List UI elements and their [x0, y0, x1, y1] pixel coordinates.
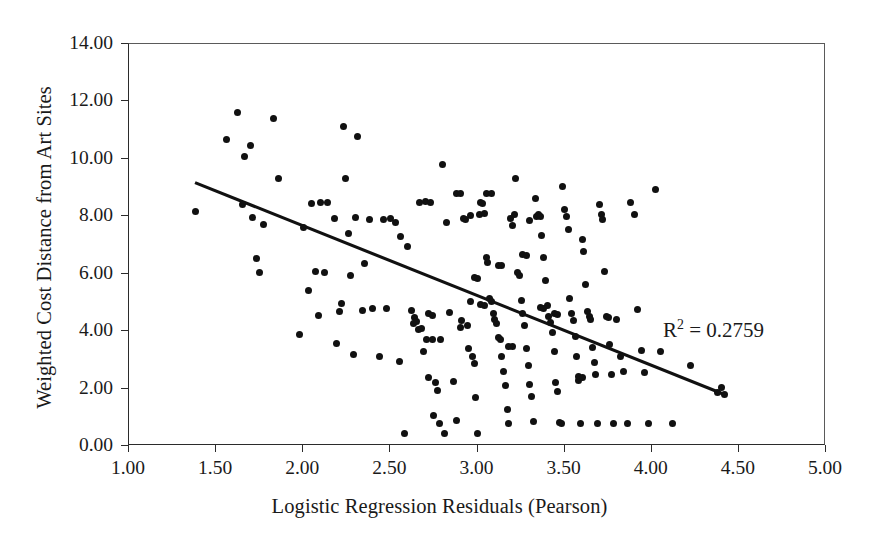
- data-point: [270, 115, 277, 122]
- data-point: [275, 175, 282, 182]
- data-point: [336, 308, 343, 315]
- data-point: [425, 374, 432, 381]
- data-point: [634, 306, 641, 313]
- data-point: [582, 281, 589, 288]
- data-point: [579, 236, 586, 243]
- data-point: [484, 259, 491, 266]
- data-point: [657, 348, 664, 355]
- x-axis-tick-label: 4.00: [606, 458, 696, 478]
- data-point: [523, 252, 530, 259]
- data-point: [464, 322, 471, 329]
- data-point: [554, 311, 561, 318]
- data-point: [472, 394, 479, 401]
- data-point: [608, 371, 615, 378]
- data-point: [392, 219, 399, 226]
- data-point: [559, 183, 566, 190]
- x-axis-tick: [477, 445, 478, 452]
- data-point: [721, 391, 728, 398]
- y-axis-tick: [121, 273, 128, 274]
- data-point: [446, 309, 453, 316]
- data-point: [498, 353, 505, 360]
- data-point: [587, 316, 594, 323]
- data-point: [315, 312, 322, 319]
- data-point: [429, 312, 436, 319]
- data-point: [331, 215, 338, 222]
- data-point: [408, 307, 415, 314]
- data-point: [552, 379, 559, 386]
- data-point: [523, 345, 530, 352]
- data-point: [631, 211, 638, 218]
- data-point: [312, 268, 319, 275]
- data-point: [498, 262, 505, 269]
- data-point: [518, 297, 525, 304]
- data-point: [342, 175, 349, 182]
- data-point: [453, 417, 460, 424]
- data-point: [429, 336, 436, 343]
- data-point: [434, 387, 441, 394]
- x-axis-tick: [302, 445, 303, 452]
- data-point: [570, 317, 577, 324]
- x-axis-tick: [389, 445, 390, 452]
- data-point: [669, 420, 676, 427]
- data-point: [594, 420, 601, 427]
- data-point: [577, 420, 584, 427]
- scatter-plot-figure: 0.002.004.006.008.0010.0012.0014.001.001…: [0, 0, 879, 536]
- data-point: [465, 345, 472, 352]
- data-point: [627, 199, 634, 206]
- data-point: [596, 201, 603, 208]
- data-point: [617, 353, 624, 360]
- data-point: [530, 418, 537, 425]
- data-point: [437, 336, 444, 343]
- data-point: [359, 307, 366, 314]
- x-axis-tick-label: 4.50: [693, 458, 783, 478]
- x-axis-tick-label: 3.00: [432, 458, 522, 478]
- data-point: [432, 379, 439, 386]
- plot-area: [128, 43, 825, 445]
- data-point: [396, 358, 403, 365]
- data-point: [241, 153, 248, 160]
- x-axis-title: Logistic Regression Residuals (Pearson): [0, 495, 879, 518]
- y-axis-title: Weighted Cost Distance from Art Sites: [33, 38, 56, 458]
- y-axis-tick: [121, 100, 128, 101]
- data-point: [305, 287, 312, 294]
- data-point: [558, 420, 565, 427]
- data-point: [526, 217, 533, 224]
- data-point: [253, 255, 260, 262]
- data-point: [504, 406, 511, 413]
- data-point: [427, 199, 434, 206]
- x-axis-tick: [825, 445, 826, 452]
- data-point: [471, 360, 478, 367]
- y-axis-tick: [121, 388, 128, 389]
- r2-exponent: 2: [677, 317, 684, 332]
- data-point: [352, 214, 359, 221]
- r2-value: = 0.2759: [684, 318, 764, 342]
- data-point: [652, 186, 659, 193]
- data-point: [247, 142, 254, 149]
- x-axis-tick: [651, 445, 652, 452]
- data-point: [345, 230, 352, 237]
- data-point: [488, 190, 495, 197]
- data-point: [641, 369, 648, 376]
- data-point: [256, 269, 263, 276]
- data-point: [380, 216, 387, 223]
- x-axis-tick-label: 3.50: [519, 458, 609, 478]
- data-point: [540, 305, 547, 312]
- data-point: [457, 324, 464, 331]
- data-point: [519, 310, 526, 317]
- data-point: [579, 374, 586, 381]
- data-point: [580, 248, 587, 255]
- data-point: [537, 213, 544, 220]
- y-axis-tick: [121, 158, 128, 159]
- data-point: [549, 329, 556, 336]
- x-axis-tick-label: 1.50: [170, 458, 260, 478]
- data-point: [340, 123, 347, 130]
- data-point: [551, 348, 558, 355]
- data-point: [439, 161, 446, 168]
- data-point: [441, 430, 448, 437]
- data-point: [457, 190, 464, 197]
- y-axis-tick: [121, 445, 128, 446]
- data-point: [192, 208, 199, 215]
- data-point: [467, 298, 474, 305]
- data-point: [249, 214, 256, 221]
- data-point: [542, 277, 549, 284]
